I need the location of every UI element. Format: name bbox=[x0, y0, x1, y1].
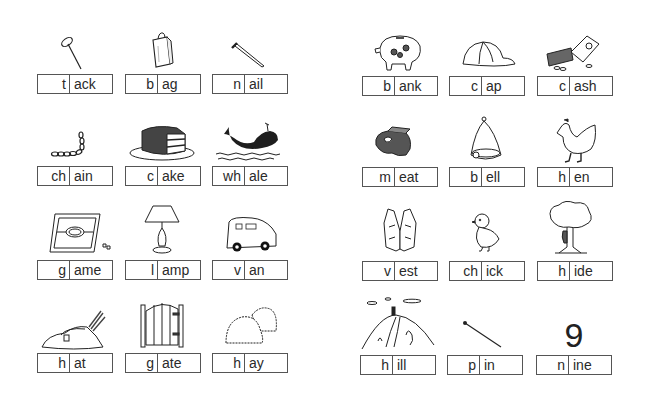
word-card-hen: h en bbox=[537, 105, 617, 191]
rime-text: ale bbox=[245, 167, 287, 185]
word-card-lamp: l amp bbox=[125, 198, 205, 284]
word-box: ch ain bbox=[37, 166, 113, 186]
nine-numeral: 9 bbox=[565, 316, 584, 354]
word-box: c ap bbox=[449, 76, 525, 96]
pin-icon bbox=[447, 293, 527, 355]
rime-text: ate bbox=[158, 354, 200, 372]
word-card-bag: b ag bbox=[125, 12, 205, 98]
rime-text: ash bbox=[570, 77, 612, 95]
onset-text: b bbox=[363, 77, 395, 95]
word-box: h at bbox=[37, 353, 113, 373]
word-card-bank: b ank bbox=[362, 14, 442, 100]
chick-icon bbox=[449, 199, 529, 261]
word-box: m eat bbox=[362, 167, 438, 187]
word-card-pin: p in bbox=[447, 293, 527, 379]
word-card-cap: c ap bbox=[449, 14, 529, 100]
word-card-game: g ame bbox=[37, 198, 117, 284]
hay-icon bbox=[212, 291, 292, 353]
hill-icon bbox=[360, 293, 440, 355]
word-box: wh ale bbox=[212, 166, 288, 186]
word-box: t ack bbox=[37, 74, 113, 94]
word-card-cash: c ash bbox=[537, 14, 617, 100]
rime-text: amp bbox=[158, 261, 200, 279]
chain-icon bbox=[37, 104, 117, 166]
bell-icon bbox=[449, 105, 529, 167]
word-card-hay: h ay bbox=[212, 291, 292, 377]
word-card-vest: v est bbox=[362, 199, 442, 285]
meat-icon bbox=[362, 105, 442, 167]
word-box: p in bbox=[447, 355, 523, 375]
rime-text: en bbox=[570, 168, 612, 186]
gate-icon bbox=[125, 291, 205, 353]
onset-text: wh bbox=[213, 167, 245, 185]
number-nine-icon: 9 bbox=[536, 293, 616, 355]
word-card-nine: 9 n ine bbox=[536, 293, 616, 379]
onset-text: g bbox=[38, 261, 70, 279]
onset-text: t bbox=[38, 75, 70, 93]
word-card-cake: c ake bbox=[125, 104, 205, 190]
onset-text: c bbox=[450, 77, 482, 95]
word-box: b ag bbox=[125, 74, 201, 94]
word-box: c ake bbox=[125, 166, 201, 186]
rime-text: ell bbox=[482, 168, 524, 186]
word-card-hat: h at bbox=[37, 291, 117, 377]
word-card-meat: m eat bbox=[362, 105, 442, 191]
word-box: v an bbox=[212, 260, 288, 280]
rime-text: ame bbox=[70, 261, 112, 279]
cap-icon bbox=[449, 14, 529, 76]
rime-text: eat bbox=[395, 168, 437, 186]
rime-text: ick bbox=[482, 262, 524, 280]
word-box: c ash bbox=[537, 76, 613, 96]
word-box: h ide bbox=[537, 261, 613, 281]
rime-text: ail bbox=[245, 75, 287, 93]
word-card-nail: n ail bbox=[212, 12, 292, 98]
word-card-hide: h ide bbox=[537, 199, 617, 285]
onset-text: n bbox=[213, 75, 245, 93]
word-box: g ame bbox=[37, 260, 113, 280]
onset-text: h bbox=[538, 168, 570, 186]
rime-text: ain bbox=[70, 167, 112, 185]
rime-text: ank bbox=[395, 77, 437, 95]
word-box: v est bbox=[362, 261, 438, 281]
word-box: h en bbox=[537, 167, 613, 187]
word-card-van: v an bbox=[212, 198, 292, 284]
word-box: ch ick bbox=[449, 261, 525, 281]
vest-icon bbox=[362, 199, 442, 261]
rime-text: ack bbox=[70, 75, 112, 93]
rime-text: an bbox=[245, 261, 287, 279]
hen-icon bbox=[537, 105, 617, 167]
rime-text: ine bbox=[569, 356, 611, 374]
word-card-chick: ch ick bbox=[449, 199, 529, 285]
rime-text: ake bbox=[158, 167, 200, 185]
lamp-icon bbox=[125, 198, 205, 260]
word-card-hill: h ill bbox=[360, 293, 440, 379]
piggy-bank-icon bbox=[362, 14, 442, 76]
onset-text: b bbox=[450, 168, 482, 186]
word-card-bell: b ell bbox=[449, 105, 529, 191]
tree-hide-icon bbox=[537, 199, 617, 261]
rime-text: in bbox=[480, 356, 522, 374]
van-icon bbox=[212, 198, 292, 260]
rime-text: at bbox=[70, 354, 112, 372]
onset-text: n bbox=[537, 356, 569, 374]
onset-text: h bbox=[361, 356, 393, 374]
word-box: g ate bbox=[125, 353, 201, 373]
word-card-tack: t ack bbox=[37, 12, 117, 98]
onset-text: c bbox=[126, 167, 158, 185]
rime-text: ill bbox=[393, 356, 435, 374]
word-box: n ail bbox=[212, 74, 288, 94]
word-card-chain: ch ain bbox=[37, 104, 117, 190]
tack-icon bbox=[37, 12, 117, 74]
onset-text: h bbox=[213, 354, 245, 372]
whale-icon bbox=[212, 104, 292, 166]
onset-text: h bbox=[38, 354, 70, 372]
bag-icon bbox=[125, 12, 205, 74]
word-box: h ay bbox=[212, 353, 288, 373]
onset-text: h bbox=[538, 262, 570, 280]
onset-text: b bbox=[126, 75, 158, 93]
rime-text: ag bbox=[158, 75, 200, 93]
onset-text: v bbox=[213, 261, 245, 279]
rime-text: est bbox=[395, 262, 437, 280]
onset-text: ch bbox=[38, 167, 70, 185]
board-game-icon bbox=[37, 198, 117, 260]
